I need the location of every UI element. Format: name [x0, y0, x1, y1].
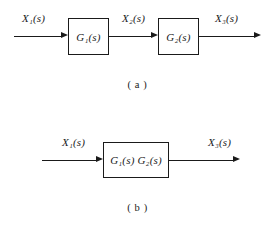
intermediate-wire-a [109, 36, 152, 37]
signal-label-x1-b: X₁(s) [62, 136, 85, 148]
caption-a: ( a ) [0, 79, 275, 90]
signal-label-x1-a: X₁(s) [22, 12, 45, 24]
output-wire-b [169, 160, 234, 161]
caption-b: ( b ) [0, 202, 275, 213]
input-wire-b [42, 160, 97, 161]
intermediate-arrowhead-a [151, 32, 158, 38]
block-g1-label: G₁(s) [76, 31, 100, 43]
signal-label-x3-a: X₃(s) [215, 12, 238, 24]
input-wire-a [14, 36, 62, 37]
block-g2-label: G₂(s) [166, 31, 190, 43]
block-g2: G₂(s) [158, 18, 199, 55]
block-g1: G₁(s) [68, 18, 109, 55]
output-wire-a [199, 36, 255, 37]
signal-label-x3-b: X₃(s) [208, 136, 231, 148]
block-diagram-figure: X₁(s) G₁(s) X₂(s) G₂(s) X₃(s) ( a ) X₁(s… [0, 0, 275, 230]
block-g1g2-label: G₁(s) G₂(s) [110, 154, 162, 166]
input-arrowhead-b [96, 156, 103, 162]
output-arrowhead-a [254, 32, 261, 38]
signal-label-x2-a: X₂(s) [122, 12, 145, 24]
input-arrowhead-a [61, 32, 68, 38]
block-g1g2: G₁(s) G₂(s) [103, 142, 169, 178]
output-arrowhead-b [233, 156, 240, 162]
